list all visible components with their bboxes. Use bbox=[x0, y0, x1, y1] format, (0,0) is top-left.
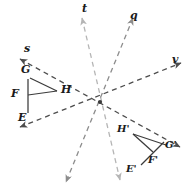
figure-canvas bbox=[0, 0, 192, 192]
vertex-label-H-prime: H' bbox=[117, 124, 130, 134]
vertex-label-E: E bbox=[18, 112, 26, 123]
line-label-v: v bbox=[172, 54, 178, 65]
line-label-s: s bbox=[24, 43, 30, 54]
vertex-label-F-prime: F' bbox=[148, 155, 158, 165]
segment-GH bbox=[30, 78, 57, 91]
vertex-label-E-prime: E' bbox=[126, 164, 137, 174]
line-t bbox=[82, 18, 120, 180]
triangle-efgh-preimage bbox=[28, 78, 57, 113]
segment-HF bbox=[28, 91, 57, 95]
line-label-t: t bbox=[82, 3, 87, 14]
center-of-rotation bbox=[98, 100, 102, 104]
vertex-label-G: G bbox=[21, 64, 30, 75]
vertex-label-F: F bbox=[11, 88, 19, 99]
vertex-label-H: H bbox=[61, 84, 71, 95]
geometry-figure: s t q v G F H E H' G' F' E' bbox=[0, 0, 192, 192]
line-label-q: q bbox=[130, 10, 138, 21]
segment-H-prime-G-prime bbox=[133, 134, 166, 145]
vertex-label-G-prime: G' bbox=[165, 140, 177, 150]
